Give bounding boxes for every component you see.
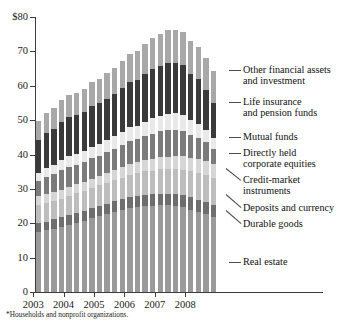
bar-segment [51, 201, 56, 220]
legend-label-line: and investment [243, 75, 331, 86]
bar-segment [44, 168, 49, 177]
y-axis-tick [30, 189, 35, 190]
bar-segment [66, 215, 71, 225]
bar-segment [104, 140, 109, 152]
bar-segment [188, 158, 193, 172]
bar-segment [135, 51, 140, 80]
y-axis-tick-label: 50 [0, 115, 28, 125]
bar-segment [165, 130, 170, 156]
x-axis-line [35, 292, 323, 293]
bar-segment [66, 187, 71, 196]
bar-segment [112, 201, 117, 212]
y-axis-tick-label: $80 [0, 12, 28, 22]
bar-segment [66, 117, 71, 156]
bar-segment [104, 204, 109, 214]
bar-segment [120, 61, 125, 88]
bar-segment [112, 180, 117, 201]
bar-segment [173, 206, 178, 292]
bar-segment [135, 80, 140, 126]
bar-segment [150, 69, 155, 118]
bar-segment [51, 192, 56, 201]
bar-segment [82, 182, 87, 191]
bar [82, 89, 87, 292]
bar-segment [59, 100, 64, 121]
bar-segment [127, 175, 132, 197]
bar-segment [89, 82, 94, 106]
bar [196, 47, 201, 292]
bar [158, 34, 163, 292]
bar-segment [74, 165, 79, 184]
y-axis-tick-label: 0 [0, 287, 28, 297]
bar-segment [82, 89, 87, 112]
bar-segment [165, 30, 170, 62]
bar-segment [97, 185, 102, 206]
bar-segment [203, 90, 208, 130]
bar-segment [142, 44, 147, 74]
bar-segment [173, 130, 178, 156]
bar-segment [66, 196, 71, 215]
bar-segment [120, 132, 125, 145]
bar [44, 113, 49, 292]
bar-segment [142, 160, 147, 171]
bar [97, 79, 102, 292]
legend-leader-line [229, 262, 241, 263]
bar-segment [51, 165, 56, 175]
footnote: *Households and nonprofit organizations. [6, 311, 128, 319]
legend-label-line: Other financial assets [243, 64, 331, 75]
bar-segment [36, 196, 41, 205]
bar-segment [44, 113, 49, 133]
plot-area [36, 17, 218, 292]
bar-segment [203, 202, 208, 214]
legend-label-line: Durable goods [243, 218, 303, 229]
y-axis-tick-label: 70 [0, 46, 28, 56]
bar-segment [211, 103, 216, 139]
bar [120, 61, 125, 292]
bar-segment [135, 139, 140, 162]
x-axis-tick [155, 292, 156, 297]
bar-segment [82, 162, 87, 181]
bar [180, 32, 185, 292]
legend-leader-line [229, 102, 241, 103]
bar-segment [158, 194, 163, 206]
legend-item-label: Durable goods [243, 218, 303, 229]
bar-segment [173, 113, 178, 130]
x-axis-tick [185, 292, 186, 297]
bar-segment [180, 131, 185, 156]
bar-segment [203, 130, 208, 142]
bar-segment [66, 156, 71, 167]
bar [74, 93, 79, 292]
bar-segment [82, 112, 87, 151]
bar-segment [165, 169, 170, 194]
bar [142, 44, 147, 292]
bar-segment [89, 158, 94, 179]
y-axis-tick [30, 86, 35, 87]
bar-segment [44, 133, 49, 168]
bar-segment [36, 223, 41, 232]
legend-item-label: Life insuranceand pension funds [243, 96, 317, 118]
bar-segment [112, 170, 117, 180]
bar-segment [51, 219, 56, 228]
bar-segment [203, 161, 208, 175]
bar-segment [158, 169, 163, 193]
bar-segment [158, 116, 163, 132]
bar-segment [196, 47, 201, 80]
bar-segment [142, 122, 147, 136]
legend-label-line: Directly held [243, 147, 316, 158]
legend-leader-line [229, 70, 241, 71]
bar-segment [104, 99, 109, 141]
bar [112, 68, 117, 292]
bar-segment [74, 115, 79, 154]
bar-segment [59, 217, 64, 226]
bar-segment [120, 199, 125, 210]
bar-segment [180, 156, 185, 169]
bar-segment [142, 195, 147, 206]
bar-segment [104, 183, 109, 204]
bar-segment [82, 211, 87, 221]
bar-segment [112, 149, 117, 170]
bar-segment [142, 136, 147, 160]
bar [165, 30, 170, 292]
bar-segment [196, 173, 201, 199]
bar-segment [203, 214, 208, 292]
y-axis-tick [30, 17, 35, 18]
bar-segment [36, 140, 41, 172]
